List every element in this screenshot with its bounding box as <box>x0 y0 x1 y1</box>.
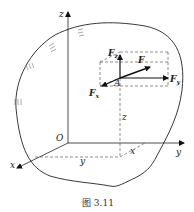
point-a-label: A <box>113 78 121 88</box>
force-decomposition-diagram: z y x O A F Fz Fy Fx z y x 图 3.11 <box>0 0 194 212</box>
x-axis-label: x <box>10 160 15 170</box>
force-f-arrow <box>120 67 150 78</box>
z-axis-label: z <box>58 9 64 19</box>
y-coordinate-label: y <box>79 156 86 166</box>
origin-label: O <box>56 133 64 143</box>
rigid-body-outline <box>16 23 183 187</box>
x-axis <box>17 143 68 168</box>
force-f-label: F <box>137 55 145 65</box>
force-fz-label: Fz <box>107 48 118 59</box>
force-fy-label: Fy <box>169 74 180 86</box>
x-coordinate-label: x <box>130 146 135 156</box>
z-coordinate-label: z <box>121 112 127 122</box>
y-axis-label: y <box>175 147 182 157</box>
force-fx-label: Fx <box>88 88 99 99</box>
figure-caption: 图 3.11 <box>82 198 114 208</box>
